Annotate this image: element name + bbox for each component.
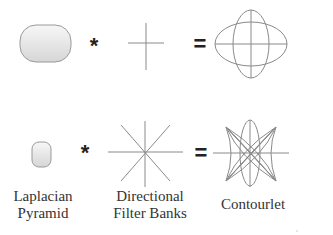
equals-operator-top: =	[190, 33, 210, 55]
label-laplacian-line2: Pyramid	[3, 205, 83, 222]
directional-cross-filter	[128, 23, 164, 70]
label-dfb-line2: Filter Banks	[100, 205, 200, 222]
contourlet-result-fine	[213, 120, 289, 187]
equals-operator-bottom: =	[191, 142, 211, 164]
label-dfb-line1: Directional	[100, 188, 200, 205]
contourlet-result-coarse	[215, 10, 287, 78]
label-laplacian-line1: Laplacian	[3, 188, 83, 205]
label-laplacian-pyramid: Laplacian Pyramid	[3, 188, 83, 222]
convolution-operator-top: *	[84, 35, 104, 57]
label-contourlet: Contourlet	[210, 196, 296, 213]
convolution-operator-bottom: *	[75, 142, 95, 164]
laplacian-pyramid-support-small	[32, 142, 51, 167]
laplacian-pyramid-support-large	[20, 25, 71, 62]
scan-artifact	[296, 230, 298, 232]
label-directional-filter-banks: Directional Filter Banks	[100, 188, 200, 222]
label-contourlet-line1: Contourlet	[210, 196, 296, 213]
directional-star-filter	[108, 121, 183, 187]
